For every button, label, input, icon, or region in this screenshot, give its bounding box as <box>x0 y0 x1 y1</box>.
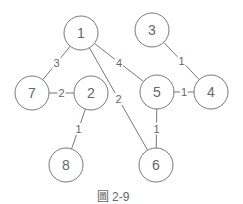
edge-weight-label: 1 <box>181 86 187 98</box>
edge-5-4: 1 <box>174 86 194 98</box>
edge-7-2: 2 <box>49 87 74 99</box>
edge-3-4: 1 <box>164 42 200 79</box>
node-label: 3 <box>148 22 156 38</box>
node-label: 2 <box>87 85 95 101</box>
node-label: 6 <box>152 157 160 173</box>
node-2: 2 <box>74 76 108 110</box>
edge-2-8: 1 <box>72 109 86 149</box>
edge-1-5: 4 <box>94 43 143 81</box>
edge-weight-label: 1 <box>178 55 184 67</box>
edge-weight-label: 2 <box>58 87 64 99</box>
node-7: 7 <box>15 76 49 110</box>
node-label: 7 <box>28 85 36 101</box>
node-3: 3 <box>135 13 169 47</box>
node-label: 4 <box>207 84 215 100</box>
node-label: 8 <box>62 157 70 173</box>
edges: 34212111 <box>43 42 200 150</box>
node-6: 6 <box>139 148 173 182</box>
edge-weight-label: 2 <box>115 93 121 105</box>
node-4: 4 <box>194 75 228 109</box>
edge-weight-label: 1 <box>75 123 81 135</box>
edge-weight-label: 4 <box>116 57 122 69</box>
node-5: 5 <box>140 75 174 109</box>
edge-1-7: 3 <box>43 46 70 80</box>
figure-caption: 圖 2-9 <box>0 187 226 204</box>
node-label: 1 <box>77 25 85 41</box>
edge-5-6: 1 <box>153 109 161 148</box>
node-1: 1 <box>64 16 98 50</box>
graph-diagram: 34212111 13725486 <box>0 0 243 204</box>
node-label: 5 <box>153 84 161 100</box>
node-8: 8 <box>49 148 83 182</box>
edge-weight-label: 3 <box>53 57 59 69</box>
edge-weight-label: 1 <box>153 123 159 135</box>
